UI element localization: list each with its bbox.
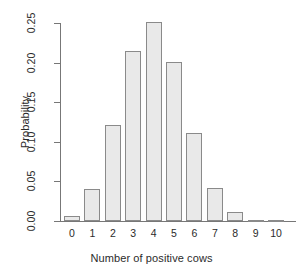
bar	[207, 188, 223, 221]
bar	[64, 216, 80, 221]
bar-series	[0, 0, 303, 273]
bar	[166, 62, 182, 221]
bar	[84, 189, 100, 221]
bar	[248, 220, 264, 222]
bar	[186, 133, 202, 221]
bar	[146, 22, 162, 221]
bar	[227, 212, 243, 221]
bar	[105, 125, 121, 221]
bar	[268, 220, 284, 222]
x-axis-title: Number of positive cows	[0, 250, 303, 266]
bar	[125, 51, 141, 221]
probability-bar-chart: Probability 0.000.050.100.150.200.25 012…	[0, 0, 303, 273]
